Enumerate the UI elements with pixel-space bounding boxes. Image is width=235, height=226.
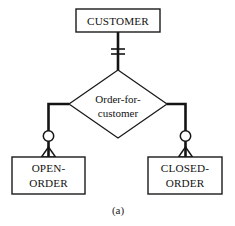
entity-closed-order-label-line-1: CLOSED- bbox=[161, 162, 209, 174]
entity-open-order[interactable]: OPEN- ORDER bbox=[12, 157, 85, 194]
entity-customer-label: CUSTOMER bbox=[87, 15, 149, 27]
entity-closed-order-label-line-2: ORDER bbox=[166, 177, 205, 189]
connector-line-open-order bbox=[49, 104, 70, 157]
relationship-label-line-1: Order-for- bbox=[95, 93, 141, 105]
relationship-order-for-customer[interactable]: Order-for- customer bbox=[69, 70, 167, 138]
connector-relationship-to-closed-order bbox=[167, 104, 193, 157]
entity-customer[interactable]: CUSTOMER bbox=[76, 9, 160, 32]
cardinality-optional-circle-open-order-icon bbox=[43, 131, 53, 141]
er-diagram-canvas: Order-for- customer CUSTOMER OPEN- ORDER… bbox=[0, 0, 235, 226]
relationship-label-line-2: customer bbox=[98, 107, 139, 119]
connector-line-closed-order bbox=[167, 104, 186, 157]
cardinality-optional-circle-closed-order-icon bbox=[180, 131, 190, 141]
connector-relationship-to-open-order bbox=[42, 104, 70, 157]
er-diagram-figure: Order-for- customer CUSTOMER OPEN- ORDER… bbox=[0, 0, 235, 226]
entity-open-order-label-line-2: ORDER bbox=[29, 177, 68, 189]
connector-customer-to-relationship bbox=[111, 32, 125, 71]
entity-closed-order[interactable]: CLOSED- ORDER bbox=[148, 157, 222, 194]
figure-caption: (a) bbox=[112, 204, 125, 217]
entity-open-order-label-line-1: OPEN- bbox=[32, 162, 66, 174]
